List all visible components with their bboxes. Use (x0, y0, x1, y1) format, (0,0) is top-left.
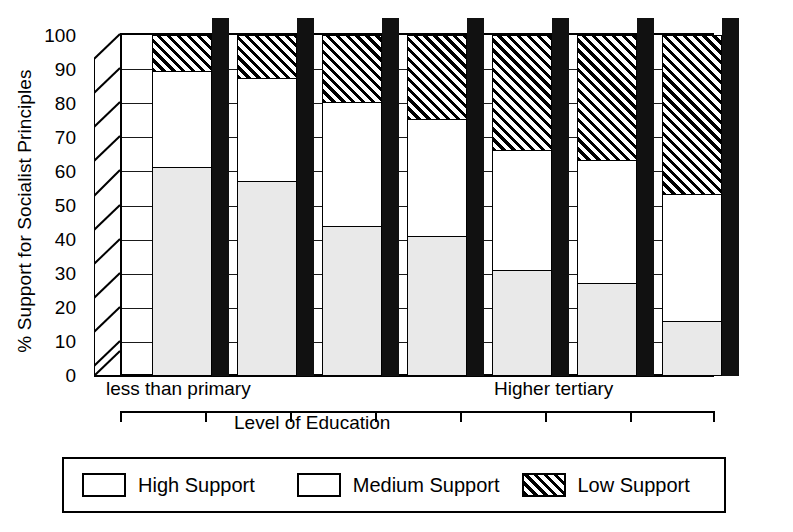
bar-5-side-face (552, 35, 569, 376)
bar-group-5[interactable] (492, 35, 552, 376)
bar-1-top-cap (212, 18, 229, 35)
bar-2-segment-high (237, 181, 297, 376)
bar-5-top-cap (552, 18, 569, 35)
bar-5-segment-high (492, 270, 552, 376)
bar-group-1[interactable] (152, 35, 212, 376)
bar-6-segment-high (577, 283, 637, 376)
bar-4-segment-low (407, 35, 467, 121)
y-tick-label-60: 60 (28, 162, 76, 181)
bar-1-segment-low (152, 35, 212, 73)
bar-2-segment-medium (237, 78, 297, 182)
bar-1-segment-medium (152, 71, 212, 168)
bar-6-segment-medium (577, 160, 637, 284)
bar-6-top-cap (637, 18, 654, 35)
legend-swatch-low-support (522, 473, 566, 497)
bar-3-side-face (382, 35, 399, 376)
bar-4-segment-medium (407, 119, 467, 237)
x-tick-7 (630, 411, 632, 422)
y-tick-label-90: 90 (28, 60, 76, 79)
bar-group-2[interactable] (237, 35, 297, 376)
legend-label-low-support: Low Support (578, 474, 690, 497)
bar-3-segment-medium (322, 102, 382, 227)
bar-group-7[interactable] (662, 35, 722, 376)
legend-label-medium-support: Medium Support (353, 474, 500, 497)
bar-4-segment-high (407, 236, 467, 376)
legend-item-high-support[interactable]: High Support (82, 473, 255, 497)
x-axis-line (120, 411, 714, 413)
x-tick-2 (205, 411, 207, 422)
bar-3-top-cap (382, 18, 399, 35)
chart-canvas: % Support for Socialist Principles 100 9… (0, 0, 793, 532)
y-tick-label-30: 30 (28, 264, 76, 283)
legend-item-low-support[interactable]: Low Support (522, 473, 690, 497)
bar-2-top-cap (297, 18, 314, 35)
bar-7-top-cap (722, 18, 739, 35)
bar-3-segment-high (322, 226, 382, 376)
bar-1-segment-high (152, 167, 212, 376)
bar-7-segment-low (662, 35, 722, 196)
legend-swatch-medium-support (297, 473, 341, 497)
bar-3-segment-low (322, 35, 382, 104)
y-tick-label-0: 0 (28, 366, 76, 385)
bar-group-6[interactable] (577, 35, 637, 376)
x-tick-label-higher-tertiary: Higher tertiary (494, 378, 613, 400)
plot-area (94, 33, 714, 378)
bar-7-side-face (722, 35, 739, 376)
x-tick-6 (545, 411, 547, 422)
bar-2-segment-low (237, 35, 297, 80)
y-tick-label-100: 100 (28, 26, 76, 45)
bar-6-side-face (637, 35, 654, 376)
bar-6-segment-low (577, 35, 637, 162)
bar-group-4[interactable] (407, 35, 467, 376)
legend-item-medium-support[interactable]: Medium Support (297, 473, 500, 497)
bar-group-3[interactable] (322, 35, 382, 376)
bar-7-segment-high (662, 321, 722, 376)
bar-5-segment-medium (492, 150, 552, 271)
chart-legend: High Support Medium Support Low Support (62, 457, 726, 513)
y-tick-label-10: 10 (28, 332, 76, 351)
y-tick-label-50: 50 (28, 196, 76, 215)
bar-4-top-cap (467, 18, 484, 35)
y-tick-label-40: 40 (28, 230, 76, 249)
x-tick-label-less-than-primary: less than primary (106, 378, 251, 400)
bar-4-side-face (467, 35, 484, 376)
bar-1-side-face (212, 35, 229, 376)
legend-label-high-support: High Support (138, 474, 255, 497)
bar-2-side-face (297, 35, 314, 376)
x-tick-8 (713, 411, 715, 422)
legend-swatch-high-support (82, 473, 126, 497)
y-tick-label-20: 20 (28, 298, 76, 317)
x-tick-1 (120, 411, 122, 422)
y-tick-label-80: 80 (28, 94, 76, 113)
x-tick-5 (460, 411, 462, 422)
bar-5-segment-low (492, 35, 552, 152)
y-tick-label-70: 70 (28, 128, 76, 147)
bar-7-segment-medium (662, 194, 722, 322)
x-axis-title: Level of Education (234, 412, 390, 434)
